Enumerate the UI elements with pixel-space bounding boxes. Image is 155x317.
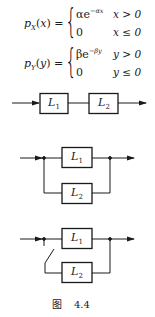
figure-prefix: 图 [52,299,62,310]
block-label-l1: L1 [62,231,92,249]
switch-icon [45,249,54,263]
block-label-l1: L1 [39,96,69,114]
figure-number: 4.4 [74,299,90,310]
block-label-l2: L2 [62,186,92,204]
block-label-l2: L2 [62,265,92,283]
series-diagram [12,94,146,114]
block-label-l2: L2 [89,96,119,114]
block-label-l1: L1 [62,150,92,168]
figure-caption: 图4.4 [52,296,90,311]
